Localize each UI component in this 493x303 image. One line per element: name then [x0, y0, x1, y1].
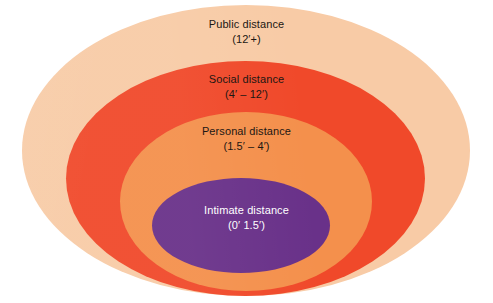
zone-label-personal: Personal distance (1.5′ – 4′)	[0, 124, 493, 153]
zone-label-public: Public distance (12′+)	[0, 17, 493, 46]
zone-title-intimate: Intimate distance	[0, 203, 493, 218]
zone-range-intimate: (0′ 1.5′)	[0, 218, 493, 233]
zone-title-public: Public distance	[0, 17, 493, 32]
proxemic-zones-diagram: Public distance (12′+) Social distance (…	[0, 0, 493, 303]
zone-range-social: (4′ – 12′)	[0, 87, 493, 102]
zone-range-personal: (1.5′ – 4′)	[0, 139, 493, 154]
zone-label-intimate: Intimate distance (0′ 1.5′)	[0, 203, 493, 232]
zone-range-public: (12′+)	[0, 32, 493, 47]
zone-title-social: Social distance	[0, 72, 493, 87]
zone-label-social: Social distance (4′ – 12′)	[0, 72, 493, 101]
zone-title-personal: Personal distance	[0, 124, 493, 139]
